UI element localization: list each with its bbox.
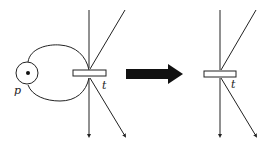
place-label: p xyxy=(14,84,21,97)
transition-label: t xyxy=(102,79,107,92)
arc-transition-to-place xyxy=(28,78,89,101)
left-net: p t xyxy=(14,10,125,136)
token-dot xyxy=(26,71,30,75)
diagonal-input-arc xyxy=(221,10,256,70)
transition-label: t xyxy=(231,78,236,91)
arc-place-to-transition xyxy=(28,45,89,70)
transition-t xyxy=(73,70,106,76)
transition-t xyxy=(204,71,236,77)
diagonal-output-arc xyxy=(221,78,256,136)
right-arrow-icon xyxy=(126,64,183,84)
petri-net-reduction-diagram: p t t xyxy=(0,0,272,144)
diagonal-input-arc xyxy=(90,10,125,69)
right-net: t xyxy=(204,10,256,136)
diagonal-output-arc xyxy=(90,78,125,136)
